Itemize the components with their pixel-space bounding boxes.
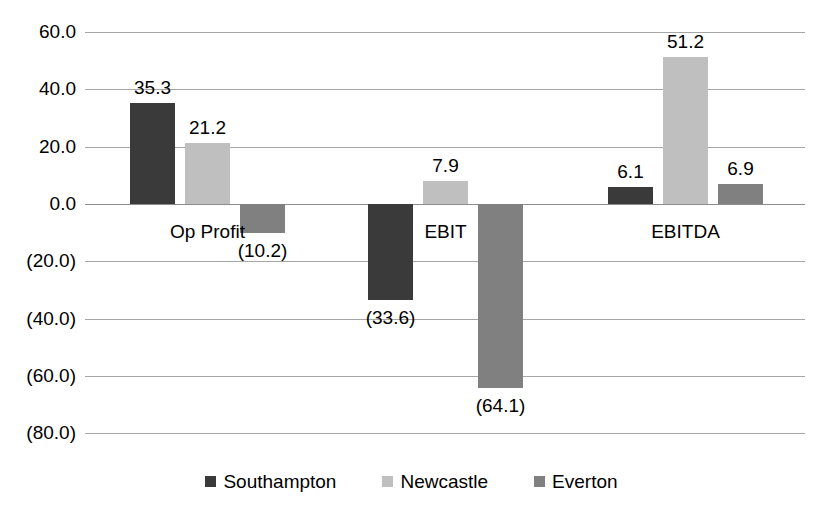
legend-swatch-icon: [534, 476, 545, 487]
y-axis-tick-label: (60.0): [0, 366, 76, 385]
legend-swatch-icon: [382, 476, 393, 487]
gridline: [85, 204, 805, 205]
y-axis-tick-label: (20.0): [0, 251, 76, 270]
legend-label: Newcastle: [400, 472, 488, 491]
legend-label: Southampton: [223, 472, 336, 491]
bar-value-label: 35.3: [108, 78, 197, 97]
y-axis-tick-label: 20.0: [0, 137, 76, 156]
y-axis-tick-label: 0.0: [0, 194, 76, 213]
bar-value-label: (33.6): [346, 308, 435, 327]
plot-area: 60.040.020.00.0(20.0)(40.0)(60.0)(80.0) …: [0, 0, 823, 462]
y-axis-tick-label: 40.0: [0, 79, 76, 98]
bar: [663, 57, 708, 204]
bar: [185, 143, 230, 204]
x-axis-category-label: EBIT: [366, 222, 526, 241]
bar-value-label: 7.9: [401, 156, 490, 175]
bar-value-label: 6.1: [586, 162, 675, 181]
bar-value-label: 51.2: [641, 32, 730, 51]
gridline: [85, 376, 805, 377]
x-axis-category-label: Op Profit: [128, 222, 288, 241]
legend-label: Everton: [552, 472, 617, 491]
bar-value-label: (10.2): [218, 241, 307, 260]
bar-value-label: (64.1): [456, 396, 545, 415]
legend-item[interactable]: Southampton: [205, 472, 336, 491]
legend-item[interactable]: Everton: [534, 472, 617, 491]
bar: [608, 187, 653, 204]
x-axis-category-label: EBITDA: [606, 222, 766, 241]
bar-value-label: 6.9: [696, 159, 785, 178]
bar: [423, 181, 468, 204]
bar-value-label: 21.2: [163, 118, 252, 137]
legend-swatch-icon: [205, 476, 216, 487]
gridline: [85, 261, 805, 262]
gridline: [85, 433, 805, 434]
y-axis-tick-label: (80.0): [0, 423, 76, 442]
legend-item[interactable]: Newcastle: [382, 472, 488, 491]
y-axis-tick-label: (40.0): [0, 309, 76, 328]
bar: [718, 184, 763, 204]
bar-chart: 60.040.020.00.0(20.0)(40.0)(60.0)(80.0) …: [0, 0, 823, 516]
chart-legend: SouthamptonNewcastleEverton: [0, 472, 823, 491]
bar: [368, 204, 413, 300]
y-axis-tick-label: 60.0: [0, 22, 76, 41]
gridline: [85, 319, 805, 320]
